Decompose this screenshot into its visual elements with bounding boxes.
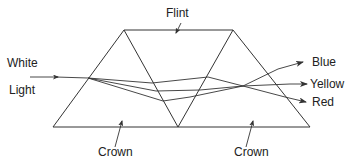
- white-light-ray: [30, 77, 88, 78]
- crown-right-outer-edge: [233, 30, 310, 127]
- crown-right-leader-arrow: [246, 121, 253, 147]
- crown-left-leader-arrow: [115, 121, 122, 147]
- yellow-label: Yellow: [310, 77, 345, 91]
- light-label: Light: [9, 83, 36, 97]
- yellow-ray: [88, 78, 307, 91]
- flint-leader-arrow: [176, 23, 181, 33]
- flint-left-interface: [124, 30, 178, 127]
- crown-right-label: Crown: [234, 145, 269, 159]
- blue-ray: [88, 62, 303, 86]
- red-label: Red: [312, 95, 334, 109]
- flint-label: Flint: [166, 6, 189, 20]
- incoming-ray-continued: [56, 77, 88, 78]
- crown-left-label: Crown: [98, 145, 133, 159]
- blue-label: Blue: [312, 55, 336, 69]
- flint-right-interface: [178, 30, 233, 127]
- white-label: White: [7, 56, 38, 70]
- prism-diagram: Flint White Light Crown Crown Blue Yello…: [0, 0, 348, 163]
